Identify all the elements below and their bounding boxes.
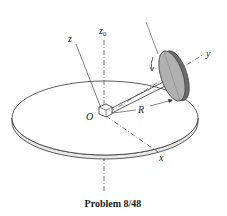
hub	[99, 104, 112, 117]
x-label: x	[158, 152, 164, 163]
diagram-drawing: z0 z y x O R Problem 8/48	[0, 0, 227, 216]
figure-caption: Problem 8/48	[85, 198, 142, 209]
y-label: y	[205, 48, 211, 59]
z-label: z	[67, 33, 72, 44]
origin-label: O	[86, 111, 93, 122]
figure: z0 z y x O R Problem 8/48	[0, 0, 227, 216]
radius-label: R	[137, 104, 144, 115]
spin-arrow-icon	[150, 57, 154, 71]
wheel-axis	[146, 22, 158, 54]
z0-label: z0	[98, 25, 107, 38]
